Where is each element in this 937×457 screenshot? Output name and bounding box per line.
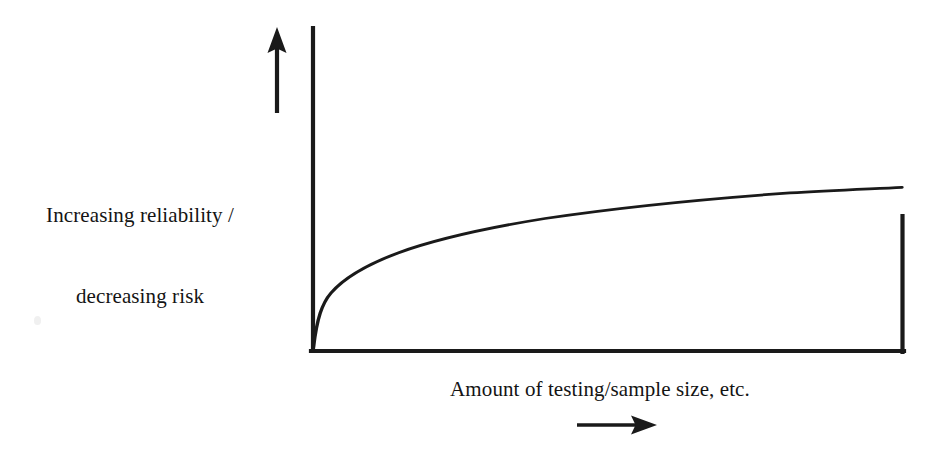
up-arrow-icon [268, 27, 287, 113]
right-arrow-icon [577, 416, 657, 435]
figure-canvas: Increasing reliability / decreasing risk… [0, 0, 937, 457]
plot-area [0, 0, 937, 457]
diminishing-returns-curve [314, 187, 903, 347]
